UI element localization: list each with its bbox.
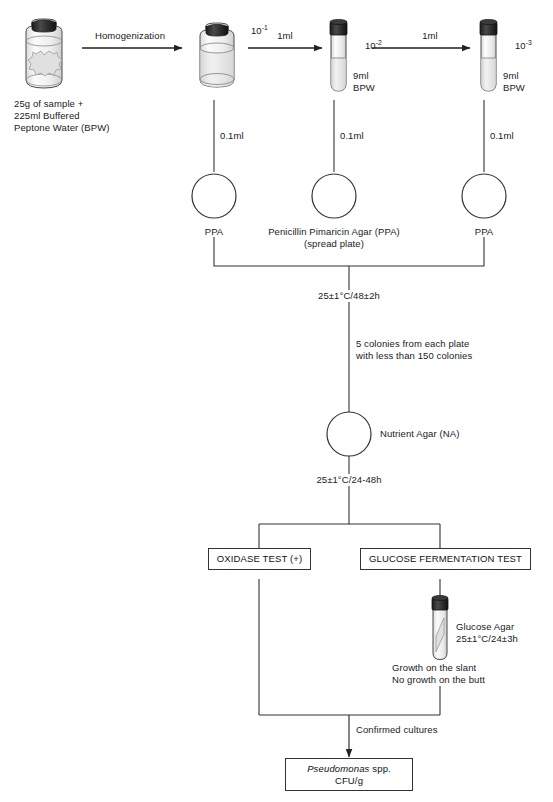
plate-label-left: PPA bbox=[205, 226, 224, 238]
sample-jar-icon bbox=[26, 19, 62, 88]
dilution-label-2-base: 10 bbox=[365, 40, 376, 51]
dilution-label-2-exp: -2 bbox=[376, 39, 382, 46]
transfer-label-1: 1ml bbox=[277, 30, 293, 42]
plating-volume-label-2: 0.1ml bbox=[340, 130, 364, 142]
petri-dish-left bbox=[192, 174, 236, 218]
glucose-result-note: Growth on the slant No growth on the but… bbox=[392, 662, 485, 686]
plating-volume-label-3: 0.1ml bbox=[490, 130, 514, 142]
petri-dish-right bbox=[462, 174, 506, 218]
transfer-label-2: 1ml bbox=[422, 30, 438, 42]
glucose-agar-caption: Glucose Agar 25±1°C/24±3h bbox=[456, 621, 518, 645]
final-result-genus: Pseudomonas bbox=[307, 763, 369, 774]
flowchart-canvas: 25g of sample + 225ml Buffered Peptone W… bbox=[0, 0, 553, 802]
tests-split-bracket bbox=[259, 524, 440, 548]
dilution-label-1: 10-1 bbox=[240, 10, 268, 49]
dilution-tube-icon-1 bbox=[330, 19, 347, 91]
homogenization-label: Homogenization bbox=[95, 30, 165, 42]
final-result-box: Pseudomonas spp. CFU/g bbox=[285, 758, 413, 791]
dilution-jar-icon bbox=[200, 23, 234, 87]
incubation-label-na: 25±1°C/24-48h bbox=[316, 474, 381, 486]
dilution-label-1-base: 10 bbox=[251, 25, 262, 36]
dilution-label-3-exp: -3 bbox=[526, 39, 532, 46]
glucose-agar-slant-tube-icon bbox=[432, 596, 448, 660]
incubation-label-ppa: 25±1°C/48±2h bbox=[318, 290, 380, 302]
dilution-tube-icon-2 bbox=[480, 19, 497, 91]
confirmed-cultures-label: Confirmed cultures bbox=[356, 724, 438, 736]
tube-caption-1: 9ml BPW bbox=[353, 70, 375, 94]
plate-label-right: PPA bbox=[475, 226, 494, 238]
plate-label-center: Penicillin Pimaricin Agar (PPA) (spread … bbox=[268, 226, 400, 250]
oxidase-test-box[interactable]: OXIDASE TEST (+) bbox=[208, 548, 311, 570]
nutrient-agar-plate bbox=[327, 412, 371, 456]
dilution-label-1-exp: -1 bbox=[262, 24, 268, 31]
final-result-unit: CFU/g bbox=[335, 775, 363, 787]
petri-dish-center bbox=[312, 174, 356, 218]
glucose-fermentation-test-box[interactable]: GLUCOSE FERMENTATION TEST bbox=[360, 548, 531, 570]
dilution-label-3-base: 10 bbox=[515, 40, 526, 51]
dilution-label-2: 10-2 bbox=[354, 25, 382, 64]
sample-caption: 25g of sample + 225ml Buffered Peptone W… bbox=[14, 98, 110, 134]
final-result-suffix: spp. bbox=[370, 763, 391, 774]
dilution-label-3: 10-3 bbox=[504, 25, 532, 64]
final-result-species: Pseudomonas spp. bbox=[307, 763, 391, 775]
nutrient-agar-label: Nutrient Agar (NA) bbox=[380, 428, 459, 440]
plating-volume-label-1: 0.1ml bbox=[220, 130, 244, 142]
colony-pick-note: 5 colonies from each plate with less tha… bbox=[356, 338, 472, 362]
tube-caption-2: 9ml BPW bbox=[503, 70, 525, 94]
